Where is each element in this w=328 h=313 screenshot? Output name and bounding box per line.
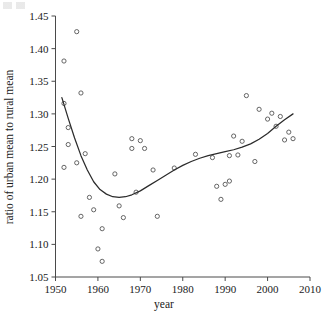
data-point: [151, 168, 155, 172]
data-point: [287, 130, 291, 134]
data-point: [117, 204, 121, 208]
data-point: [87, 195, 91, 199]
x-tick-label: 1990: [214, 283, 237, 295]
x-axis-tick-group: 1950196019701980199020002010: [45, 277, 322, 295]
x-tick-label: 2000: [257, 283, 280, 295]
data-point: [121, 216, 125, 220]
page-artifact-mark: [3, 2, 25, 9]
data-point: [278, 114, 282, 118]
data-point: [92, 208, 96, 212]
data-point: [240, 139, 244, 143]
data-point: [155, 214, 159, 218]
data-point: [75, 30, 79, 34]
plot-canvas: 1.051.101.151.201.251.301.351.401.45 195…: [0, 0, 328, 313]
data-point: [265, 117, 269, 121]
y-tick-label: 1.45: [29, 10, 49, 22]
data-points-layer: [62, 30, 295, 264]
data-point: [113, 172, 117, 176]
data-point: [193, 152, 197, 156]
data-point: [142, 146, 146, 150]
scatter-chart: 1.051.101.151.201.251.301.351.401.45 195…: [0, 0, 328, 313]
data-point: [223, 182, 227, 186]
y-tick-label: 1.20: [29, 173, 49, 185]
data-point: [62, 165, 66, 169]
data-point: [282, 138, 286, 142]
data-point: [227, 179, 231, 183]
x-tick-label: 1960: [87, 283, 110, 295]
data-point: [236, 153, 240, 157]
data-point: [291, 137, 295, 141]
data-point: [219, 197, 223, 201]
data-point: [62, 59, 66, 63]
x-tick-label: 1980: [172, 283, 195, 295]
data-point: [83, 152, 87, 156]
data-point: [79, 214, 83, 218]
x-tick-label: 1950: [45, 283, 68, 295]
y-tick-label: 1.30: [29, 108, 49, 120]
data-point: [138, 139, 142, 143]
y-tick-label: 1.10: [29, 238, 49, 250]
data-point: [130, 146, 134, 150]
data-point: [257, 107, 261, 111]
x-tick-label: 2010: [299, 283, 322, 295]
x-tick-label: 1970: [129, 283, 152, 295]
fit-curve: [62, 98, 293, 198]
y-tick-label: 1.15: [29, 206, 49, 218]
data-point: [215, 184, 219, 188]
data-point: [75, 161, 79, 165]
data-point: [66, 142, 70, 146]
data-point: [130, 137, 134, 141]
x-axis-title: year: [154, 298, 174, 311]
data-point: [227, 154, 231, 158]
data-point: [96, 247, 100, 251]
data-point: [270, 111, 274, 115]
y-tick-label: 1.40: [29, 43, 49, 55]
data-point: [244, 94, 248, 98]
data-point: [79, 91, 83, 95]
data-point: [66, 125, 70, 129]
data-point: [232, 134, 236, 138]
y-tick-label: 1.05: [29, 271, 49, 283]
y-axis-title: ratio of urban mean to rural mean: [3, 69, 15, 224]
data-point: [253, 159, 257, 163]
y-tick-label: 1.35: [29, 75, 49, 87]
data-point: [100, 227, 104, 231]
data-point: [100, 259, 104, 263]
data-point: [210, 155, 214, 159]
y-axis-tick-group: 1.051.101.151.201.251.301.351.401.45: [29, 10, 55, 283]
y-tick-label: 1.25: [29, 141, 49, 153]
